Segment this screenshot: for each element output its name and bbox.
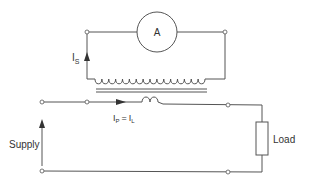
secondary-terminal-right — [223, 30, 227, 34]
secondary-terminal-left — [85, 30, 89, 34]
primary-coil-icon — [142, 97, 158, 102]
supply-terminal-bottom — [40, 169, 44, 173]
primary-terminal-right-bottom — [226, 170, 230, 174]
supply-label: Supply — [9, 139, 40, 150]
secondary-current-arrow-icon — [84, 52, 90, 61]
primary-top-right-wire — [158, 102, 262, 105]
primary-current-label: IP=IL — [113, 113, 135, 124]
supply-terminal-top — [40, 100, 44, 104]
current-transformer-diagram: A IS Load IP=IL Supply — [0, 0, 310, 188]
primary-current-arrow-icon — [116, 99, 126, 105]
load-label: Load — [273, 134, 295, 145]
transformer-core — [96, 89, 207, 92]
secondary-coil-icon — [95, 79, 205, 84]
supply-arrow-icon — [39, 119, 45, 128]
primary-terminal-right-top — [226, 103, 230, 107]
secondary-current-label: IS — [72, 52, 80, 65]
primary-terminal-left — [85, 100, 89, 104]
primary-circuit: Load IP=IL Supply — [9, 97, 295, 174]
secondary-circuit: A IS — [72, 12, 227, 84]
load-resistor-icon — [256, 122, 268, 155]
ammeter-label: A — [154, 27, 161, 38]
